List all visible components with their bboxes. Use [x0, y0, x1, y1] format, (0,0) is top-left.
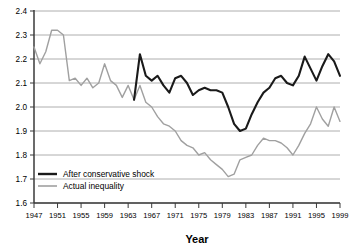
y-tick-label-2.0: 2.0	[16, 103, 28, 112]
x-tick-label-1959: 1959	[96, 211, 113, 220]
legend: After conservative shockActual inequalit…	[38, 169, 155, 191]
x-tick-label-1963: 1963	[120, 211, 137, 220]
x-axis	[34, 203, 340, 208]
x-tick-label-1951: 1951	[49, 211, 66, 220]
legend-label-actual-inequality: Actual inequality	[63, 181, 125, 191]
x-tick-label-1991: 1991	[284, 211, 301, 220]
y-tick-label-1.6: 1.6	[16, 199, 28, 208]
x-tick-label-1955: 1955	[73, 211, 90, 220]
x-tick-label-1999: 1999	[332, 211, 349, 220]
y-tick-labels: 1.61.71.81.92.02.12.22.32.4	[16, 7, 28, 208]
x-tick-label-1995: 1995	[308, 211, 325, 220]
x-tick-label-1975: 1975	[190, 211, 207, 220]
series-line-after-conservative-shock	[134, 54, 340, 131]
x-axis-title: Year	[185, 233, 209, 245]
y-tick-label-2.3: 2.3	[16, 31, 28, 40]
y-tick-label-1.8: 1.8	[16, 151, 28, 160]
y-tick-label-1.7: 1.7	[16, 175, 28, 184]
y-tick-label-1.9: 1.9	[16, 127, 28, 136]
x-tick-label-1979: 1979	[214, 211, 231, 220]
line-chart: 1.61.71.81.92.02.12.22.32.4 194719511955…	[0, 0, 353, 251]
x-tick-label-1971: 1971	[167, 211, 184, 220]
y-axis	[30, 10, 34, 203]
x-tick-label-1947: 1947	[26, 211, 43, 220]
x-tick-labels: 1947195119551959196319671971197519791983…	[26, 211, 349, 220]
y-tick-label-2.2: 2.2	[16, 55, 28, 64]
x-tick-label-1967: 1967	[143, 211, 160, 220]
legend-label-after-conservative-shock: After conservative shock	[63, 169, 155, 179]
chart-container: 1.61.71.81.92.02.12.22.32.4 194719511955…	[0, 0, 353, 251]
y-tick-label-2.4: 2.4	[16, 7, 28, 16]
x-tick-label-1983: 1983	[237, 211, 254, 220]
y-tick-label-2.1: 2.1	[16, 79, 28, 88]
x-tick-label-1987: 1987	[261, 211, 278, 220]
